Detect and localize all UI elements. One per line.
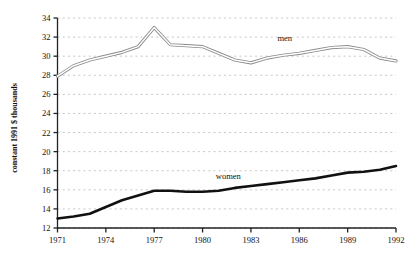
- y-tick-label-24: 24: [42, 108, 51, 118]
- x-tick-label-1971: 1971: [49, 235, 66, 245]
- x-tick-label-1986: 1986: [291, 235, 308, 245]
- axis-layer: [54, 18, 397, 233]
- series-annotation-men: men: [277, 33, 292, 43]
- chart-figure: 121416182022242628303234 197119741977198…: [0, 0, 405, 256]
- y-axis-title: constant 1991 $ thousands: [10, 83, 19, 173]
- y-tick-label-30: 30: [42, 51, 51, 61]
- x-tick-label-1977: 1977: [146, 235, 163, 245]
- x-tick-label-1974: 1974: [97, 235, 115, 245]
- y-tick-label-26: 26: [42, 89, 51, 99]
- x-axis-tick-labels: 19711974197719801983198619891992: [49, 235, 405, 245]
- y-tick-label-22: 22: [42, 128, 51, 138]
- y-tick-label-12: 12: [42, 223, 51, 233]
- y-tick-label-34: 34: [42, 13, 51, 23]
- x-tick-label-1983: 1983: [242, 235, 259, 245]
- y-tick-label-16: 16: [42, 185, 51, 195]
- line-chart-canvas: 121416182022242628303234 197119741977198…: [0, 0, 405, 256]
- series-line-men-outer: [58, 28, 397, 77]
- y-tick-label-20: 20: [42, 147, 51, 157]
- y-tick-label-14: 14: [42, 204, 51, 214]
- x-tick-label-1980: 1980: [194, 235, 211, 245]
- y-tick-label-28: 28: [42, 70, 51, 80]
- grid-layer: [58, 18, 397, 228]
- x-tick-label-1989: 1989: [339, 235, 356, 245]
- y-tick-label-32: 32: [42, 32, 51, 42]
- y-axis-tick-labels: 121416182022242628303234: [42, 13, 51, 233]
- series-annotation-women: women: [216, 171, 242, 181]
- y-tick-label-18: 18: [42, 166, 51, 176]
- series-line-men-inner: [58, 28, 397, 77]
- x-tick-label-1992: 1992: [388, 235, 405, 245]
